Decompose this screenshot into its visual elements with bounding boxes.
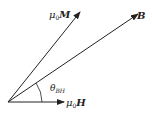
- label-mu0-h: μ0H: [66, 97, 86, 109]
- label-theta-bh: θBH: [50, 83, 66, 94]
- vector-diagram: μ0M B μ0H θBH: [0, 0, 152, 121]
- vector-b-arrow: [8, 14, 138, 102]
- vector-m-arrow: [8, 12, 80, 102]
- angle-arc: [36, 83, 42, 102]
- label-mu0-m: μ0M: [49, 9, 71, 21]
- label-b: B: [136, 10, 145, 21]
